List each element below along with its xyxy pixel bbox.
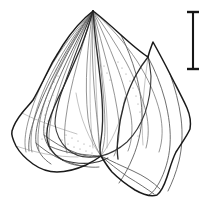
stipple-dot-10 — [44, 114, 45, 115]
stipple-dot-20 — [135, 95, 136, 96]
stipple-dot-15 — [117, 61, 118, 62]
stipple-dot-22 — [139, 111, 140, 112]
figure-root — [0, 0, 210, 212]
stipple-dot-3 — [55, 69, 56, 70]
stipple-dot-33 — [71, 137, 72, 138]
stipple-dot-39 — [109, 79, 110, 80]
stipple-dot-6 — [50, 87, 51, 88]
stipple-dot-4 — [57, 75, 58, 76]
stipple-dot-32 — [65, 134, 66, 135]
stipple-dot-34 — [77, 140, 78, 141]
stipple-dot-18 — [129, 80, 130, 81]
stipple-dot-8 — [48, 100, 49, 101]
stipple-dot-38 — [106, 72, 107, 73]
stipple-dot-36 — [89, 145, 90, 146]
stipple-dot-2 — [60, 65, 61, 66]
stipple-dot-16 — [121, 67, 122, 68]
stipple-dot-37 — [103, 65, 104, 66]
stipple-dot-29 — [79, 148, 80, 149]
stipple-dot-21 — [137, 103, 138, 104]
stipple-dot-24 — [139, 127, 140, 128]
stipple-dot-26 — [61, 139, 62, 140]
stipple-dot-19 — [132, 87, 133, 88]
stipple-dot-7 — [52, 94, 53, 95]
stipple-dot-25 — [137, 135, 138, 136]
stipple-dot-30 — [85, 150, 86, 151]
stipple-dot-9 — [46, 107, 47, 108]
figure-background — [0, 0, 210, 212]
stipple-dot-28 — [73, 146, 74, 147]
stipple-dot-12 — [43, 126, 44, 127]
stipple-dot-17 — [125, 73, 126, 74]
stipple-dot-5 — [53, 81, 54, 82]
stipple-dot-14 — [41, 138, 42, 139]
specimen-illustration — [0, 0, 210, 212]
stipple-dot-31 — [91, 152, 92, 153]
stipple-dot-1 — [58, 59, 59, 60]
stipple-dot-35 — [83, 143, 84, 144]
stipple-dot-27 — [67, 143, 68, 144]
